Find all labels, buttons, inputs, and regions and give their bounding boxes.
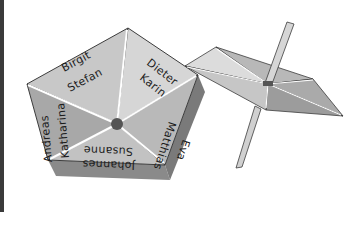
name-johannes: Johannes	[82, 157, 136, 172]
spinner-illustration: Birgit Stefan Dieter Karin Matthias Eva …	[0, 0, 360, 234]
hub-dot	[111, 118, 123, 130]
name-susanne: Susanne	[83, 143, 133, 158]
small-spinner	[185, 22, 343, 168]
stick-lower	[236, 106, 261, 168]
